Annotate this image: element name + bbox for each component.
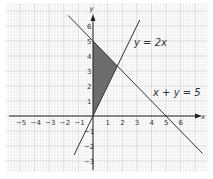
y-tick-label: 1	[87, 98, 91, 106]
y-tick-label: 6	[87, 23, 92, 31]
x-tick-label: 3	[135, 119, 139, 127]
x-tick-label: 5	[164, 119, 168, 127]
x-tick-label: −5	[16, 119, 26, 127]
y-tick-label: −2	[84, 143, 94, 151]
equation-label-y-2x: y = 2x	[133, 37, 167, 48]
x-tick-label: 2	[120, 119, 124, 127]
x-tick-label: −1	[74, 119, 84, 127]
equation-label-x-plus-y-5: x + y = 5	[152, 87, 201, 98]
x-tick-label: 1	[106, 119, 110, 127]
x-tick-label: −4	[31, 119, 42, 127]
x-tick-label: 4	[149, 119, 154, 127]
x-tick-label: −3	[45, 119, 55, 127]
y-axis-label: y	[89, 5, 95, 13]
y-axis-arrow-icon	[91, 14, 96, 21]
x-tick-label: 6	[179, 119, 184, 127]
y-tick-label: 2	[87, 83, 91, 91]
shaded-feasible-region	[93, 41, 117, 116]
line-y-equals-2x	[74, 20, 140, 155]
y-tick-label: 3	[87, 68, 91, 76]
y-tick-label: −3	[84, 158, 94, 166]
y-tick-label: 4	[87, 53, 92, 61]
x-tick-label: −2	[60, 119, 70, 127]
x-axis-label: x	[200, 113, 206, 121]
graph: x y −5−4−3−2−1123456−3−2−1123456 y = 2x …	[0, 0, 213, 179]
